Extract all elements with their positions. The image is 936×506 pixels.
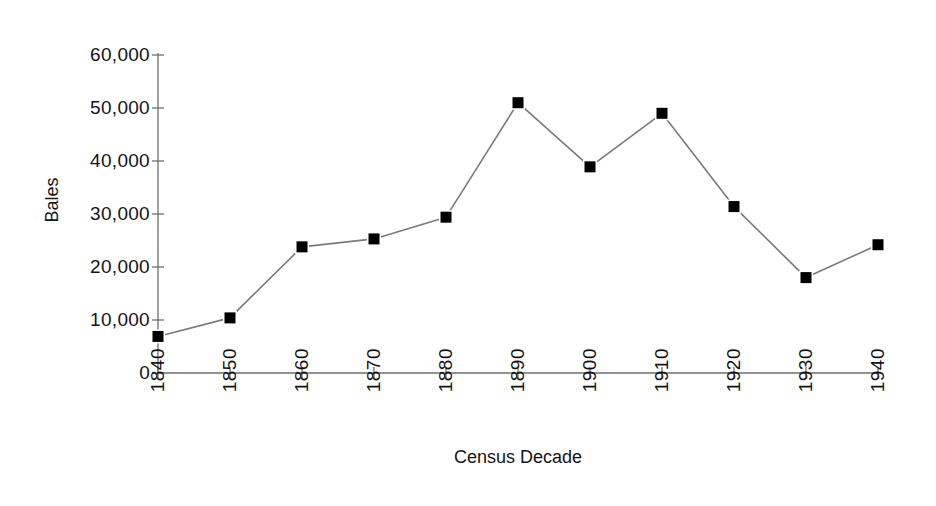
x-axis-title: Census Decade bbox=[158, 447, 878, 467]
chart-container: 010,00020,00030,00040,00050,00060,000 Ba… bbox=[0, 0, 936, 506]
x-axis-tick-label: 1910 bbox=[652, 348, 671, 438]
x-axis-tick-label: 1940 bbox=[868, 348, 887, 438]
x-axis-tick-label: 1900 bbox=[580, 348, 599, 438]
x-axis-tick-label: 1840 bbox=[148, 348, 167, 438]
x-axis-tick-label: 1870 bbox=[364, 348, 383, 438]
x-axis-tick-label: 1930 bbox=[796, 348, 815, 438]
x-axis-tick-label: 1920 bbox=[724, 348, 743, 438]
x-axis-tick-label: 1880 bbox=[436, 348, 455, 438]
x-axis-tick-label: 1860 bbox=[292, 348, 311, 438]
x-axis-tick-labels: 1840185018601870188018901900191019201930… bbox=[0, 0, 936, 506]
x-axis-tick-label: 1890 bbox=[508, 348, 527, 438]
x-axis-tick-label: 1850 bbox=[220, 348, 239, 438]
